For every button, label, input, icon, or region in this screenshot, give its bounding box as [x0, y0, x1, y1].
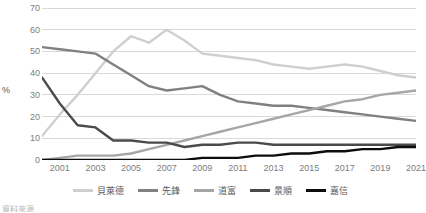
x-tick-label: 2019 [370, 163, 390, 173]
y-axis-ticks: 010203040506070 [12, 0, 40, 160]
x-tick-label: 2005 [121, 163, 141, 173]
legend-label: 道富 [218, 184, 236, 197]
legend-item[interactable]: 景順 [250, 184, 292, 197]
y-tick-label: 40 [14, 68, 40, 78]
x-tick-label: 2009 [192, 163, 212, 173]
y-tick-label: 20 [14, 112, 40, 122]
legend-swatch [138, 189, 158, 192]
legend-swatch [306, 189, 326, 192]
legend-item[interactable]: 道富 [194, 184, 236, 197]
x-tick-label: 2013 [264, 163, 284, 173]
x-tick-label: 2017 [335, 163, 355, 173]
y-axis-title: % [2, 85, 10, 95]
footnote: 資料來源 [2, 203, 34, 212]
x-tick-label: 2003 [85, 163, 105, 173]
legend-swatch [194, 189, 214, 192]
legend-item[interactable]: 先鋒 [138, 184, 180, 197]
plot-area [42, 8, 416, 160]
x-tick-label: 2021 [406, 163, 426, 173]
legend-swatch [73, 189, 93, 192]
legend-item[interactable]: 貝萊德 [73, 184, 124, 197]
gridlines [42, 8, 416, 160]
series-line [42, 147, 416, 160]
series-line [42, 77, 416, 146]
series-line [42, 47, 416, 121]
y-tick-label: 70 [14, 3, 40, 13]
x-tick-label: 2011 [228, 163, 247, 173]
x-tick-label: 2007 [157, 163, 177, 173]
legend-swatch [250, 189, 270, 192]
y-tick-label: 0 [14, 155, 40, 165]
legend: 貝萊德先鋒道富景順嘉信 [0, 182, 420, 198]
x-tick-label: 2001 [50, 163, 70, 173]
legend-label: 景順 [274, 184, 292, 197]
legend-item[interactable]: 嘉信 [306, 184, 348, 197]
y-tick-label: 50 [14, 46, 40, 56]
y-tick-label: 30 [14, 90, 40, 100]
y-tick-label: 60 [14, 25, 40, 35]
legend-label: 嘉信 [330, 184, 348, 197]
legend-label: 先鋒 [162, 184, 180, 197]
y-tick-label: 10 [14, 133, 40, 143]
x-tick-label: 2015 [299, 163, 319, 173]
series-line [42, 30, 416, 136]
plot-svg [42, 8, 416, 160]
legend-label: 貝萊德 [97, 184, 124, 197]
